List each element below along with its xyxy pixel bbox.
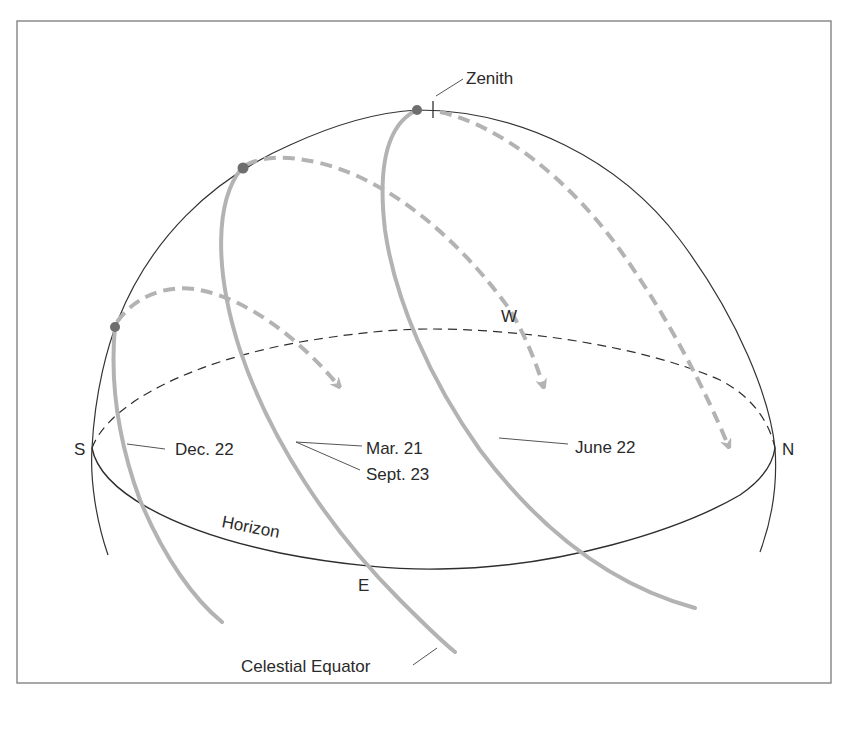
- dec22-label: Dec. 22: [175, 440, 234, 459]
- horizon-back-dashed: [92, 329, 775, 448]
- east-label: E: [358, 576, 369, 595]
- equinox-leader-line-2: [296, 442, 360, 470]
- june22-label: June 22: [575, 438, 636, 457]
- west-label: W: [501, 307, 517, 326]
- sun-path-equinox: [221, 168, 455, 652]
- dec22-leader-line: [127, 444, 165, 449]
- sun-path-dec22: [114, 327, 222, 622]
- sun-path-june22: [383, 110, 695, 608]
- zenith-leader-line: [436, 79, 463, 96]
- south-label: S: [74, 440, 85, 459]
- celestial-equator-label: Celestial Equator: [241, 657, 371, 676]
- june22-leader-line: [499, 438, 568, 444]
- noon-marker-june22: [412, 105, 422, 115]
- noon-marker-dec22: [110, 322, 120, 332]
- horizon-label: Horizon: [220, 512, 281, 542]
- equinox-leader-line-1: [296, 442, 362, 446]
- zenith-label: Zenith: [466, 69, 513, 88]
- noon-marker-equinox: [238, 163, 249, 174]
- north-label: N: [782, 440, 794, 459]
- sun-path-june22-dashed-arrow: [440, 112, 728, 445]
- horizon-front: [92, 448, 775, 569]
- mar21-label: Mar. 21: [366, 439, 423, 458]
- celestial-sphere-diagram: Zenith W S N E Horizon Dec. 22 Mar. 21 S…: [0, 0, 860, 730]
- celestial-equator-leader-line: [413, 648, 437, 665]
- sept23-label: Sept. 23: [366, 465, 429, 484]
